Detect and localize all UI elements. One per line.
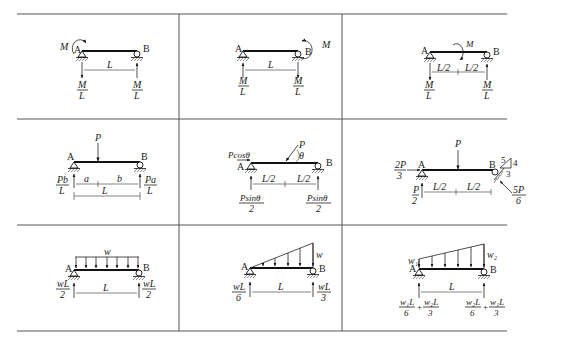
- angle-label: θ: [299, 150, 304, 161]
- reaction-B-den: 3: [320, 292, 326, 303]
- cell-uniform-load: w A B L wL 2 wL 2: [56, 246, 156, 300]
- reaction-B-den: L: [483, 90, 490, 101]
- reaction-A-den: L: [78, 90, 85, 101]
- reaction-A-den: L: [425, 90, 432, 101]
- span-label-right: L/2: [464, 62, 478, 73]
- distributed-load-arrows: [263, 243, 313, 266]
- slope-run-label: 3: [506, 169, 511, 179]
- cell-moment-at-midspan: M A B L/2 L/2 M L M L: [421, 39, 500, 101]
- reaction-B-den: L: [294, 86, 301, 97]
- reaction-B-den: 2: [146, 289, 151, 300]
- span-label-b: b: [117, 173, 122, 184]
- roller-support-icon: [134, 162, 146, 172]
- support-label-A: A: [409, 263, 417, 274]
- span-label-right: L/2: [296, 173, 310, 184]
- reaction-B-den: L: [133, 90, 140, 101]
- reaction-A-num: Psinθ: [239, 193, 261, 203]
- support-label-A: A: [418, 159, 426, 170]
- distributed-load-arrows: [419, 244, 484, 267]
- plus-sign: +: [417, 302, 422, 312]
- reaction-B-num: wL: [143, 278, 156, 289]
- span-label: L: [106, 59, 113, 70]
- reaction-B-num: Pa: [144, 174, 156, 185]
- reaction-A-den: L: [239, 86, 246, 97]
- triangular-load-outline: [250, 243, 313, 268]
- load-label: P: [94, 132, 101, 143]
- load-label: w: [104, 246, 111, 257]
- reaction-B-num: wL: [318, 281, 331, 292]
- cell-trapezoidal-load: w₁ w₂ A B L w₁L 6 + w₂L 3 w₂L 6 + w₁L 3: [399, 244, 505, 318]
- term-num: w₂L: [466, 297, 480, 307]
- moment-label: M: [321, 39, 331, 50]
- term-den: 6: [404, 308, 409, 318]
- reaction-A-den: 2: [60, 289, 65, 300]
- term-num: w₁L: [400, 297, 414, 307]
- support-label-A: A: [67, 151, 75, 162]
- roller-support-icon: [478, 269, 490, 279]
- support-label-A: A: [74, 44, 82, 55]
- reaction-B-num: M: [132, 79, 142, 90]
- horizontal-reaction-num: 2P: [395, 159, 406, 170]
- inclined-reaction-arrow-icon: [500, 181, 512, 193]
- reaction-A-num: M: [77, 79, 87, 90]
- reaction-B-den: L: [146, 185, 153, 196]
- horizontal-reaction-den: 3: [396, 170, 402, 181]
- support-label-A: A: [237, 161, 245, 172]
- support-label-B: B: [326, 157, 333, 168]
- reaction-B-num: M: [293, 75, 303, 86]
- span-label-left: L/2: [432, 181, 446, 192]
- distributed-load-arrows: [76, 257, 138, 268]
- support-label-B: B: [143, 43, 150, 54]
- roller-support-icon: [131, 51, 143, 61]
- reaction-B-num: M: [482, 79, 492, 90]
- plus-sign: +: [483, 302, 488, 312]
- horizontal-reaction-label: Pcosθ: [227, 150, 250, 160]
- support-label-B: B: [143, 262, 150, 273]
- reaction-B-expression: w₂L 6 + w₁L 3: [465, 297, 505, 318]
- reaction-B-num: Psinθ: [306, 193, 328, 203]
- term-den: 3: [427, 308, 433, 318]
- cell-triangular-load: w A B L wL 6 wL 3: [232, 243, 331, 303]
- term-den: 3: [493, 308, 499, 318]
- reaction-B-den: 2: [316, 203, 321, 214]
- span-label: L: [102, 282, 109, 293]
- load-label: P: [454, 138, 461, 149]
- support-label-B: B: [141, 151, 148, 162]
- slope-rise-label: 4: [513, 158, 518, 168]
- cell-moment-at-B: M A B L M L M L: [235, 39, 331, 97]
- roller-support-icon: [312, 163, 324, 173]
- roller-support-icon: [292, 51, 304, 61]
- span-label: L: [448, 281, 455, 292]
- span-label-a: a: [84, 173, 89, 184]
- trapezoidal-load-outline: [419, 244, 484, 268]
- pin-support-icon: [68, 162, 80, 172]
- reaction-B-den: 6: [516, 195, 521, 206]
- reaction-A-den: 2: [412, 195, 417, 206]
- term-num: w₁L: [490, 297, 504, 307]
- span-label-right: L/2: [466, 181, 480, 192]
- inclined-load-arrow-icon: [286, 145, 298, 161]
- support-label-A: A: [241, 261, 249, 272]
- beam-reactions-table: M A B L M L M L M A B L M L M L: [0, 0, 564, 339]
- support-label-B: B: [319, 263, 326, 274]
- reaction-B-num: 5P: [513, 184, 524, 195]
- cell-moment-at-A: M A B L M L M L: [59, 40, 150, 101]
- reaction-A-den: L: [58, 185, 65, 196]
- cell-inclined-roller-support: 5 4 3 P A B 2P 3 L/2 L/2 P 2 5P 6: [394, 138, 526, 206]
- reaction-A-den: 6: [236, 292, 241, 303]
- span-label-left: L/2: [436, 62, 450, 73]
- support-label-B: B: [490, 264, 497, 275]
- roller-support-icon: [307, 268, 319, 278]
- load-label: P: [298, 139, 305, 150]
- reaction-A-num: wL: [57, 278, 70, 289]
- term-den: 6: [470, 308, 475, 318]
- span-label-total: L: [101, 185, 108, 196]
- load-label: w: [316, 249, 323, 260]
- reaction-A-den: 2: [249, 203, 254, 214]
- reaction-A-num: Pb: [56, 174, 68, 185]
- reaction-A-num: M: [424, 79, 434, 90]
- support-label-A: A: [65, 263, 73, 274]
- reaction-A-num: M: [238, 75, 248, 86]
- span-label-left: L/2: [261, 173, 275, 184]
- support-label-B: B: [489, 159, 496, 170]
